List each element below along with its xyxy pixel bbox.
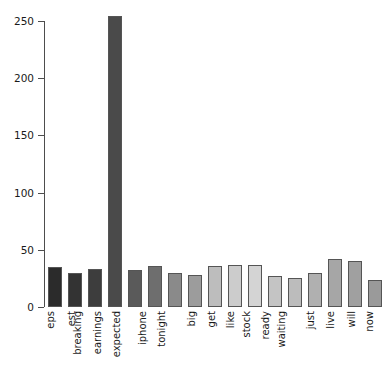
- bar[interactable]: [108, 16, 123, 307]
- x-label-slot: waiting: [285, 309, 305, 377]
- bar-slot: [265, 8, 285, 307]
- y-axis-tick-label: 250: [0, 16, 34, 27]
- bar-slot: [225, 8, 245, 307]
- x-label-slot: will: [345, 309, 365, 377]
- x-axis-tick-label: just: [306, 293, 316, 311]
- bar-slot: [45, 8, 65, 307]
- x-axis-tick-label: stock: [242, 284, 252, 311]
- x-axis-tick-label: live: [326, 293, 336, 311]
- bar-slot: [65, 8, 85, 307]
- x-axis-tick-label: will: [347, 294, 357, 311]
- x-axis-tick-label-text: will: [347, 311, 357, 328]
- y-axis-tick-label: 100: [0, 187, 34, 198]
- bar-slot: [85, 8, 105, 307]
- x-axis-tick-label: ready: [261, 283, 271, 311]
- bar-slot: [285, 8, 305, 307]
- bar[interactable]: [168, 273, 183, 307]
- y-axis-tick: [38, 21, 44, 22]
- y-axis-tick-label: 150: [0, 130, 34, 141]
- bar-chart: 050100150200250 epsestbreakingearningsex…: [0, 0, 389, 377]
- bar-slot: [345, 8, 365, 307]
- x-axis-tick-label-text: get: [207, 311, 217, 327]
- x-axis-tick-label-text: tonight: [157, 311, 167, 347]
- bar-slot: [125, 8, 145, 307]
- x-axis-tick-label: like: [226, 294, 236, 311]
- x-axis-tick-label: now: [365, 290, 375, 311]
- x-axis-tick-label: big: [187, 296, 197, 311]
- x-label-slot: tonight: [165, 309, 185, 377]
- y-axis-tick: [38, 307, 44, 308]
- bar-series: [45, 8, 385, 307]
- bar-slot: [165, 8, 185, 307]
- x-axis-tick-label-text: iphone: [138, 311, 148, 345]
- x-axis-tick-label-text: stock: [242, 311, 252, 338]
- x-label-slot: get: [205, 309, 225, 377]
- y-axis-tick-label: 50: [0, 245, 34, 256]
- x-axis-tick-label-text: eps: [46, 311, 56, 329]
- x-axis-tick-label: waiting: [277, 275, 287, 311]
- x-label-slot: just: [305, 309, 325, 377]
- bar-slot: [365, 8, 385, 307]
- x-axis-tick-labels: epsestbreakingearningsexpectediphonetoni…: [45, 309, 385, 377]
- bar-slot: [305, 8, 325, 307]
- x-axis-tick-label: eps: [46, 293, 56, 311]
- x-axis-tick-label-text: like: [226, 311, 236, 328]
- x-axis-tick-label-text: earnings: [93, 311, 103, 354]
- x-axis-tick-label-text: waiting: [277, 311, 287, 347]
- y-axis-tick: [38, 193, 44, 194]
- bar-slot: [245, 8, 265, 307]
- y-axis-tick: [38, 78, 44, 79]
- bar-slot: [105, 8, 125, 307]
- y-axis-tick-label: 0: [0, 302, 34, 313]
- x-axis-tick-label-text: big: [187, 311, 197, 326]
- x-label-slot: eps: [45, 309, 65, 377]
- y-axis-tick: [38, 250, 44, 251]
- x-axis-tick-label-text: expected: [112, 311, 122, 357]
- x-label-slot: now: [365, 309, 385, 377]
- x-axis-tick-label: earnings: [93, 268, 103, 311]
- plot-area: [45, 8, 385, 307]
- bar-slot: [325, 8, 345, 307]
- x-axis-tick-label-text: breaking: [73, 311, 83, 355]
- x-label-slot: big: [185, 309, 205, 377]
- bar-slot: [205, 8, 225, 307]
- x-axis-tick-label: expected: [112, 265, 122, 311]
- bar[interactable]: [288, 278, 303, 307]
- x-axis-tick-label: breaking: [73, 267, 83, 311]
- x-label-slot: live: [325, 309, 345, 377]
- y-axis-tick: [38, 135, 44, 136]
- y-axis-tick-label: 200: [0, 73, 34, 84]
- bar-slot: [185, 8, 205, 307]
- x-axis-tick-label: get: [207, 295, 217, 311]
- x-axis-tick-label-text: now: [365, 311, 375, 332]
- x-axis-tick-label-text: live: [326, 311, 336, 329]
- x-axis-tick-label-text: ready: [261, 311, 271, 339]
- x-axis-tick-label: iphone: [138, 277, 148, 311]
- x-axis-tick-label: tonight: [157, 275, 167, 311]
- x-axis-tick-label-text: just: [306, 311, 316, 329]
- bar-slot: [145, 8, 165, 307]
